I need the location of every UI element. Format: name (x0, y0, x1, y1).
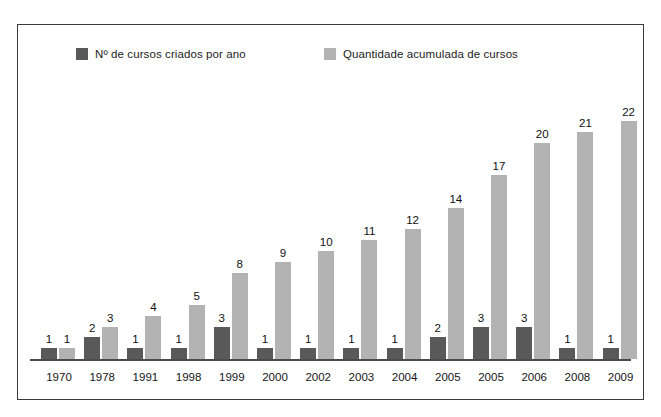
bar-value-label: 2 (89, 322, 95, 334)
bar-value-label: 1 (564, 333, 570, 345)
bar: 3 (102, 327, 118, 359)
bar-group: 23 (84, 69, 120, 359)
bar-value-label: 1 (305, 333, 311, 345)
bar: 1 (59, 348, 75, 359)
bar-value-label: 1 (348, 333, 354, 345)
bar-group: 317 (473, 69, 509, 359)
bar-value-label: 4 (150, 301, 156, 313)
bar: 2 (84, 337, 100, 359)
bar-value-label: 9 (280, 247, 286, 259)
chart-screenshot: Nº de cursos criados por ano Quantidade … (0, 0, 661, 417)
x-axis-tick-label: 1970 (39, 370, 79, 384)
bar: 1 (127, 348, 143, 359)
bar: 5 (189, 305, 205, 359)
x-axis-tick-label: 1991 (125, 370, 165, 384)
bar-value-label: 1 (175, 333, 181, 345)
bar: 1 (41, 348, 57, 359)
bar: 1 (559, 348, 575, 359)
bar-value-label: 1 (262, 333, 268, 345)
x-axis-tick-label: 2009 (601, 370, 641, 384)
bar: 1 (171, 348, 187, 359)
bar-value-label: 10 (320, 236, 333, 248)
x-axis-tick-label: 2008 (557, 370, 597, 384)
bar-group: 214 (430, 69, 466, 359)
x-axis-tick-labels: 1970197819911998199920002002200320042005… (18, 370, 645, 390)
x-axis-tick-label: 2000 (255, 370, 295, 384)
bar-value-label: 5 (193, 290, 199, 302)
bar-group: 14 (127, 69, 163, 359)
bar-value-label: 1 (391, 333, 397, 345)
bar: 14 (448, 208, 464, 359)
bar-group: 11 (41, 69, 77, 359)
bar-group: 38 (214, 69, 250, 359)
bar: 12 (405, 229, 421, 359)
bar: 3 (473, 327, 489, 359)
plot-area: 112314153819110111112214317320121122 197… (18, 25, 645, 401)
bar-value-label: 1 (46, 333, 52, 345)
bar-group: 122 (603, 69, 639, 359)
bar-value-label: 1 (64, 333, 70, 345)
bar: 8 (232, 273, 248, 359)
bar-value-label: 2 (435, 322, 441, 334)
bar: 1 (603, 348, 619, 359)
bar: 1 (257, 348, 273, 359)
bar-value-label: 14 (449, 193, 462, 205)
bar-value-label: 17 (493, 160, 506, 172)
bar-value-label: 1 (132, 333, 138, 345)
bar-value-label: 12 (406, 214, 419, 226)
bar-value-label: 1 (607, 333, 613, 345)
bar-group: 19 (257, 69, 293, 359)
bar-value-label: 3 (107, 312, 113, 324)
bar: 20 (534, 143, 550, 359)
bar-value-label: 21 (579, 117, 592, 129)
bar: 1 (300, 348, 316, 359)
bar: 10 (318, 251, 334, 359)
x-axis-tick-label: 2002 (298, 370, 338, 384)
x-axis-line (30, 359, 631, 361)
x-axis-tick-label: 2004 (385, 370, 425, 384)
bar-value-label: 3 (219, 312, 225, 324)
chart-frame: Nº de cursos criados por ano Quantidade … (17, 24, 644, 400)
bar: 3 (516, 327, 532, 359)
bar-group: 121 (559, 69, 595, 359)
x-axis-tick-label: 2005 (471, 370, 511, 384)
bar-value-label: 3 (521, 312, 527, 324)
bar: 4 (145, 316, 161, 359)
bar: 9 (275, 262, 291, 359)
bar-group: 111 (343, 69, 379, 359)
bar: 21 (577, 132, 593, 359)
bar: 1 (387, 348, 403, 359)
bar-value-label: 3 (478, 312, 484, 324)
bar-value-label: 20 (536, 128, 549, 140)
bar-group: 15 (171, 69, 207, 359)
bar: 3 (214, 327, 230, 359)
bar: 2 (430, 337, 446, 359)
x-axis-tick-label: 2005 (428, 370, 468, 384)
bar-group: 112 (387, 69, 423, 359)
bar-group: 110 (300, 69, 336, 359)
x-axis-tick-label: 1999 (212, 370, 252, 384)
bar: 11 (361, 240, 377, 359)
bar-group: 320 (516, 69, 552, 359)
x-axis-tick-label: 1998 (169, 370, 209, 384)
bar: 1 (343, 348, 359, 359)
x-axis-tick-label: 2003 (341, 370, 381, 384)
bar-value-label: 8 (237, 258, 243, 270)
x-axis-tick-label: 2006 (514, 370, 554, 384)
bar: 22 (621, 121, 637, 359)
x-axis-tick-label: 1978 (82, 370, 122, 384)
bar: 17 (491, 175, 507, 359)
bar-value-label: 11 (363, 225, 375, 237)
bar-value-label: 22 (622, 106, 635, 118)
